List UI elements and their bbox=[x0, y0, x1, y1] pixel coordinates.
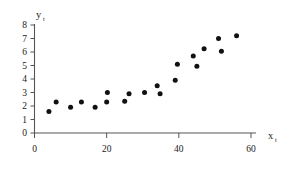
y-axis-title: y bbox=[36, 9, 42, 20]
data-point bbox=[219, 49, 224, 54]
y-tick-label: 4 bbox=[22, 74, 27, 84]
x-tick-label: 40 bbox=[174, 144, 184, 154]
data-point bbox=[54, 99, 59, 104]
data-point bbox=[202, 46, 207, 51]
y-axis-title-subscript: t bbox=[43, 15, 45, 22]
data-point bbox=[216, 36, 221, 41]
x-axis-ticks bbox=[35, 133, 252, 138]
y-tick-label: 1 bbox=[22, 115, 27, 125]
data-point bbox=[175, 62, 180, 67]
data-point bbox=[191, 54, 196, 59]
y-tick-label: 0 bbox=[22, 128, 27, 138]
data-point bbox=[46, 109, 51, 114]
data-point bbox=[122, 99, 127, 104]
data-point bbox=[234, 33, 239, 38]
y-tick-label: 7 bbox=[22, 34, 27, 44]
data-point bbox=[68, 105, 73, 110]
data-point bbox=[173, 78, 178, 83]
x-tick-label: 0 bbox=[32, 144, 37, 154]
data-point bbox=[104, 99, 109, 104]
data-point bbox=[194, 64, 199, 69]
data-point bbox=[93, 105, 98, 110]
chart-figure: 012345678 0204060 y t x t bbox=[0, 0, 291, 172]
data-point bbox=[142, 90, 147, 95]
y-tick-label: 5 bbox=[22, 61, 27, 71]
x-axis-title: x bbox=[268, 130, 274, 141]
y-tick-label: 6 bbox=[22, 47, 27, 57]
data-point bbox=[79, 99, 84, 104]
scatter-plot: 012345678 0204060 y t x t bbox=[0, 0, 291, 172]
x-axis-tick-labels: 0204060 bbox=[32, 144, 256, 154]
y-axis-tick-labels: 012345678 bbox=[22, 20, 27, 138]
data-point-group bbox=[46, 33, 239, 114]
data-point bbox=[105, 90, 110, 95]
data-point bbox=[127, 91, 132, 96]
x-tick-label: 20 bbox=[102, 144, 112, 154]
y-tick-label: 3 bbox=[22, 88, 27, 98]
x-axis-title-subscript: t bbox=[275, 136, 277, 143]
y-tick-label: 8 bbox=[22, 20, 27, 30]
y-tick-label: 2 bbox=[22, 101, 27, 111]
data-point bbox=[158, 91, 163, 96]
data-point bbox=[155, 83, 160, 88]
x-tick-label: 60 bbox=[246, 144, 256, 154]
y-axis-ticks bbox=[31, 25, 35, 133]
